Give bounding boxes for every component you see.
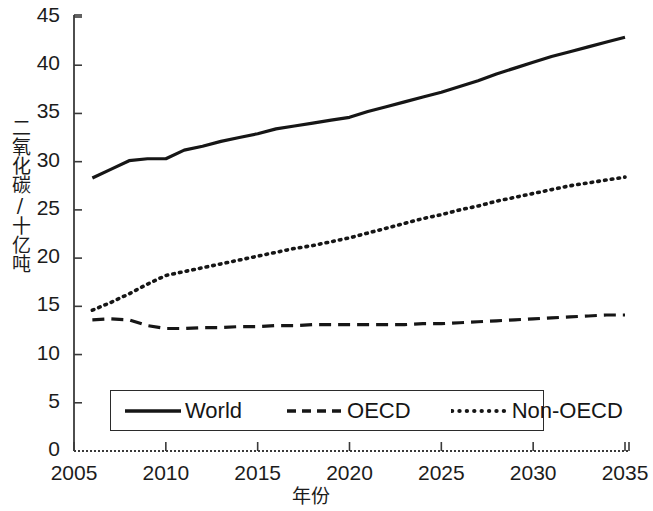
legend-entry-non-oecd[interactable]: Non-OECD — [451, 398, 623, 424]
series-line-world — [92, 37, 625, 178]
series-line-oecd — [92, 315, 625, 329]
legend-swatch-dashed-icon — [286, 404, 344, 418]
legend-label: World — [185, 398, 242, 424]
legend-label: Non-OECD — [512, 398, 623, 424]
legend-entry-world[interactable]: World — [124, 398, 242, 424]
data-series-layer — [92, 37, 625, 328]
series-line-non-oecd — [92, 177, 625, 310]
legend-swatch-dotted-icon — [451, 404, 509, 418]
legend-swatch-solid-icon — [124, 404, 182, 418]
legend-label: OECD — [347, 398, 411, 424]
legend: WorldOECDNon-OECD — [110, 390, 544, 431]
axis-lines — [74, 15, 629, 451]
legend-entry-oecd[interactable]: OECD — [286, 398, 411, 424]
